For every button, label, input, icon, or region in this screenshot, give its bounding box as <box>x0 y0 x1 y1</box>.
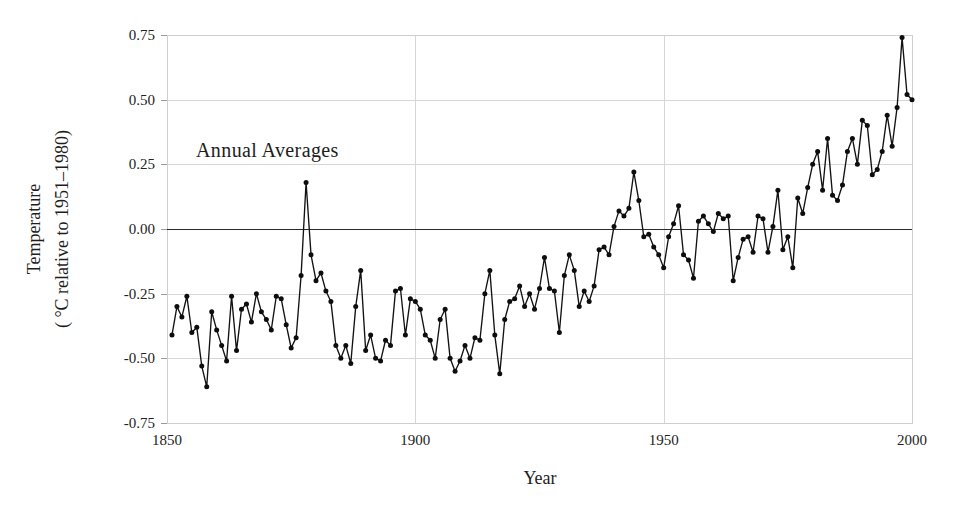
data-point <box>671 221 676 226</box>
data-point <box>706 221 711 226</box>
data-point <box>477 338 482 343</box>
data-point <box>368 333 373 338</box>
data-point <box>199 364 204 369</box>
chart-background <box>0 0 978 518</box>
data-point <box>790 265 795 270</box>
data-point <box>716 211 721 216</box>
data-point <box>870 172 875 177</box>
data-point <box>323 289 328 294</box>
data-point <box>736 255 741 260</box>
data-point <box>711 229 716 234</box>
data-point <box>388 343 393 348</box>
y-tick-label: -0.25 <box>124 286 155 302</box>
data-point <box>318 270 323 275</box>
data-point <box>353 304 358 309</box>
data-point <box>403 333 408 338</box>
data-point <box>552 289 557 294</box>
data-point <box>855 162 860 167</box>
y-tick-label: -0.50 <box>124 350 155 366</box>
data-point <box>661 265 666 270</box>
data-point <box>472 335 477 340</box>
data-point <box>408 296 413 301</box>
data-point <box>418 307 423 312</box>
data-point <box>741 237 746 242</box>
data-point <box>174 304 179 309</box>
x-tick-label: 1850 <box>152 432 182 448</box>
data-point <box>532 307 537 312</box>
data-point <box>820 188 825 193</box>
data-point <box>547 286 552 291</box>
y-tick-label: 0.75 <box>129 27 155 43</box>
data-point <box>751 250 756 255</box>
data-point <box>631 170 636 175</box>
y-tick-label: 0.50 <box>129 92 155 108</box>
data-point <box>641 234 646 239</box>
data-point <box>279 296 284 301</box>
y-tick-label: -0.75 <box>124 415 155 431</box>
data-point <box>765 250 770 255</box>
data-point <box>626 206 631 211</box>
data-point <box>592 283 597 288</box>
data-point <box>443 307 448 312</box>
data-point <box>264 317 269 322</box>
data-point <box>780 247 785 252</box>
data-point <box>875 167 880 172</box>
data-point <box>234 348 239 353</box>
data-point <box>393 289 398 294</box>
data-point <box>343 343 348 348</box>
data-point <box>423 333 428 338</box>
data-point <box>775 188 780 193</box>
data-point <box>482 291 487 296</box>
data-point <box>338 356 343 361</box>
data-point <box>597 247 602 252</box>
data-point <box>602 245 607 250</box>
data-point <box>666 234 671 239</box>
data-point <box>845 149 850 154</box>
y-tick-label: 0.25 <box>129 156 155 172</box>
data-point <box>398 286 403 291</box>
data-point <box>507 299 512 304</box>
data-point <box>502 317 507 322</box>
data-point <box>830 193 835 198</box>
data-point <box>795 195 800 200</box>
data-point <box>348 361 353 366</box>
data-point <box>840 183 845 188</box>
data-point <box>259 309 264 314</box>
data-point <box>309 252 314 257</box>
data-point <box>885 113 890 118</box>
annual-averages-annotation: Annual Averages <box>196 139 339 162</box>
data-point <box>616 208 621 213</box>
data-point <box>542 255 547 260</box>
data-point <box>726 214 731 219</box>
data-point <box>463 343 468 348</box>
y-tick-label: 0.00 <box>129 221 155 237</box>
data-point <box>850 136 855 141</box>
data-point <box>517 283 522 288</box>
data-point <box>815 149 820 154</box>
data-point <box>900 35 905 40</box>
data-point <box>179 314 184 319</box>
data-point <box>905 92 910 97</box>
data-point <box>314 278 319 283</box>
data-point <box>428 338 433 343</box>
data-point <box>527 291 532 296</box>
y-axis-title-line1: Temperature <box>24 184 44 275</box>
data-point <box>328 299 333 304</box>
data-point <box>363 348 368 353</box>
data-point <box>686 258 691 263</box>
data-point <box>890 144 895 149</box>
x-tick-label: 2000 <box>897 432 927 448</box>
data-point <box>895 105 900 110</box>
data-point <box>761 216 766 221</box>
data-point <box>413 299 418 304</box>
data-point <box>607 252 612 257</box>
data-point <box>696 219 701 224</box>
data-point <box>572 268 577 273</box>
data-point <box>785 234 790 239</box>
data-point <box>805 185 810 190</box>
data-point <box>299 273 304 278</box>
data-point <box>512 296 517 301</box>
data-point <box>487 268 492 273</box>
data-point <box>294 335 299 340</box>
data-point <box>269 327 274 332</box>
